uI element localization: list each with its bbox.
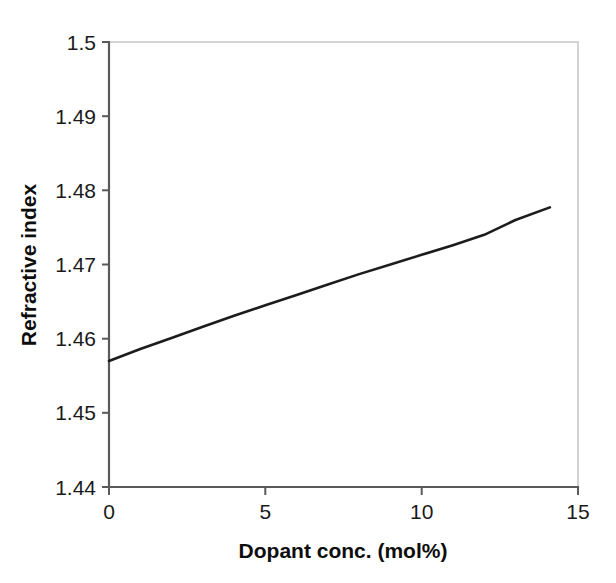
y-axis-title: Refractive index [17,184,40,347]
y-axis-tick-labels: 1.5 1.49 1.48 1.47 1.46 1.45 1.44 [55,31,96,499]
y-tick-label-1-5: 1.5 [67,31,96,54]
refractive-index-line-chart: 1.5 1.49 1.48 1.47 1.46 1.45 1.44 0 5 10… [0,0,616,583]
y-tick-label-1-47: 1.47 [55,253,96,276]
x-tick-label-10: 10 [410,500,433,523]
plot-area-background [109,42,578,487]
y-tick-label-1-46: 1.46 [55,327,96,350]
x-axis-tick-labels: 0 5 10 15 [103,500,590,523]
x-tick-label-5: 5 [259,500,271,523]
y-tick-label-1-48: 1.48 [55,179,96,202]
x-axis-title: Dopant conc. (mol%) [239,539,448,562]
chart-figure: 1.5 1.49 1.48 1.47 1.46 1.45 1.44 0 5 10… [0,0,616,583]
x-tick-label-15: 15 [566,500,589,523]
y-tick-label-1-44: 1.44 [55,476,96,499]
y-tick-label-1-45: 1.45 [55,401,96,424]
x-axis-ticks [109,487,578,495]
x-tick-label-0: 0 [103,500,115,523]
y-tick-label-1-49: 1.49 [55,105,96,128]
